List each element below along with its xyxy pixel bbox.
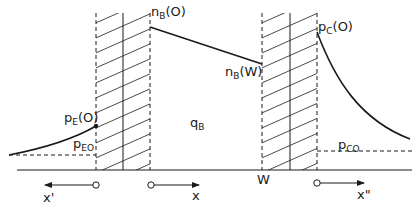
emitter-base-depletion-region	[80, 0, 170, 202]
x-double-prime-axis	[314, 180, 364, 186]
base-electron-profile	[150, 27, 262, 64]
label-qB: qB	[190, 116, 204, 132]
x-prime-axis	[45, 182, 99, 188]
label-nB0: nB(O)	[151, 5, 186, 21]
label-pEO: pEO	[73, 137, 94, 153]
label-x: x	[192, 189, 200, 202]
label-pC0: pC(O)	[318, 20, 353, 36]
diagram-canvas	[0, 0, 418, 202]
label-pCO: pCO	[338, 138, 360, 154]
label-nBW: nB(W)	[225, 65, 262, 81]
label-x-double-prime: x"	[357, 188, 371, 201]
label-pE0: pE(O)	[64, 111, 98, 127]
label-x-prime: x'	[43, 191, 54, 202]
collector-hole-profile	[317, 32, 410, 139]
label-W: W	[257, 173, 270, 186]
